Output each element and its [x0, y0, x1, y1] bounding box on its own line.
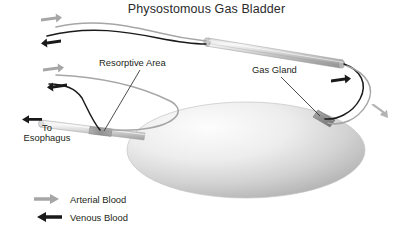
resorptive-area-leader	[104, 70, 140, 131]
venous-arrow-upper-left	[41, 38, 61, 47]
venous-arrow-right	[331, 75, 351, 84]
legend: Arterial Blood Venous Blood	[33, 190, 183, 226]
figure-title: Physostomous Gas Bladder	[0, 3, 413, 16]
arterial-arrow-right	[371, 104, 388, 118]
legend-label-venous: Venous Blood	[70, 212, 128, 223]
legend-label-arterial: Arterial Blood	[70, 194, 126, 205]
resorptive-area-patch	[89, 127, 112, 137]
label-resorptive-area: Resorptive Area	[99, 58, 166, 68]
diagram-canvas: Physostomous Gas Bladder Resorptive Area…	[0, 0, 413, 238]
label-to-esophagus: To Esophagus	[14, 123, 80, 143]
right-vessel-loop	[325, 64, 370, 124]
arrow-right-icon	[33, 192, 63, 206]
arrow-left-icon	[33, 210, 63, 224]
arterial-arrow-mid-left	[43, 64, 64, 73]
legend-item-arterial: Arterial Blood	[33, 190, 183, 208]
label-to-esophagus-line2: Esophagus	[14, 133, 80, 143]
legend-item-venous: Venous Blood	[33, 208, 183, 226]
label-gas-gland: Gas Gland	[252, 65, 297, 75]
upper-vessel-pair	[47, 23, 206, 44]
